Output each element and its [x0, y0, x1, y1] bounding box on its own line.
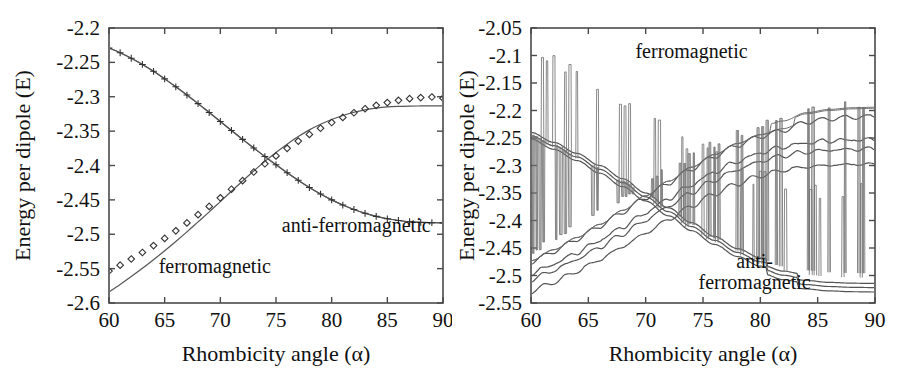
marker-diamond	[362, 105, 369, 112]
y-tick-label: -2.45	[478, 236, 522, 260]
marker-diamond	[184, 220, 191, 227]
energy-spike	[628, 104, 631, 188]
x-tick-label: 70	[210, 308, 231, 332]
figure-container: 60657075808590-2.2-2.25-2.3-2.35-2.4-2.4…	[0, 0, 901, 382]
ferromagnetic-label: ferromagnetic	[159, 255, 271, 278]
y-tick-label: -2.15	[478, 71, 522, 95]
chart-panel-left: 60657075808590-2.2-2.25-2.3-2.35-2.4-2.4…	[0, 0, 452, 382]
marker-diamond	[161, 235, 168, 242]
marker-plus	[295, 177, 302, 184]
energy-spike	[707, 148, 709, 239]
x-tick-label: 90	[433, 308, 453, 332]
marker-diamond	[128, 256, 135, 263]
marker-plus	[351, 206, 358, 213]
y-tick-label: -2.45	[56, 188, 100, 212]
marker-plus	[117, 49, 124, 56]
energy-spike	[596, 89, 599, 170]
x-tick-label: 70	[635, 308, 656, 332]
marker-plus	[339, 202, 346, 209]
y-tick-label: -2.1	[489, 44, 522, 68]
y-tick-label: -2.2	[489, 99, 522, 123]
y-tick-label: -2.5	[489, 264, 522, 288]
energy-spike	[819, 198, 821, 276]
x-axis-title: Rhombicity angle (α)	[609, 341, 798, 366]
marker-diamond	[173, 228, 180, 235]
marker-plus	[317, 191, 324, 198]
y-tick-label: -2.3	[67, 85, 100, 109]
energy-spike	[715, 152, 718, 243]
x-tick-label: 60	[99, 308, 120, 332]
energy-spike	[784, 189, 787, 271]
energy-spike	[686, 149, 688, 227]
x-tick-label: 60	[521, 308, 542, 332]
energy-spike	[809, 189, 812, 274]
chart-panel-right: 60657075808590-2.05-2.1-2.15-2.2-2.25-2.…	[452, 0, 901, 382]
energy-spike	[842, 197, 844, 278]
energy-spike	[658, 120, 661, 208]
y-tick-label: -2.4	[67, 154, 101, 178]
x-tick-label: 90	[865, 308, 886, 332]
energy-spike	[569, 64, 572, 155]
x-tick-label: 85	[377, 308, 398, 332]
energy-spike	[553, 56, 556, 147]
y-tick-label: -2.3	[489, 154, 522, 178]
marker-diamond	[406, 95, 413, 102]
curve-ferromagnetic-sim	[109, 48, 443, 223]
y-tick-label: -2.6	[67, 291, 100, 315]
y-axis-title: Energy per dipole (E)	[10, 70, 35, 261]
anti-ferromagnetic-label: anti-ferromagnetic	[699, 250, 811, 294]
curve-antiferromagnetic-branch-3	[531, 147, 874, 282]
marker-diamond	[150, 242, 157, 249]
marker-diamond	[417, 94, 424, 101]
x-tick-label: 80	[750, 308, 771, 332]
marker-diamond	[206, 203, 213, 210]
y-tick-label: -2.25	[478, 126, 522, 150]
marker-diamond	[195, 211, 202, 218]
marker-plus	[150, 68, 157, 75]
marker-diamond	[384, 99, 391, 106]
data-layer	[531, 56, 874, 294]
energy-spike	[814, 185, 817, 275]
energy-spike	[624, 106, 627, 185]
energy-spike	[546, 61, 548, 145]
energy-spike	[681, 137, 683, 223]
x-tick-label: 75	[266, 308, 287, 332]
y-tick-label: -2.25	[56, 50, 100, 74]
energy-spike	[619, 104, 622, 184]
marker-diamond	[395, 97, 402, 104]
energy-spike	[702, 144, 704, 235]
y-tick-label: -2.35	[478, 181, 522, 205]
y-axis-title: Energy per dipole (E)	[454, 70, 479, 261]
y-tick-label: -2.2	[67, 16, 100, 40]
y-tick-label: -2.5	[67, 222, 100, 246]
curve-antiferromagnetic-branch-5	[531, 115, 874, 265]
energy-spike	[564, 72, 566, 153]
marker-plus	[128, 55, 135, 62]
y-tick-label: -2.55	[478, 291, 522, 315]
marker-diamond	[306, 131, 313, 138]
energy-spike	[576, 71, 578, 158]
energy-spike	[860, 184, 862, 278]
anti-ferromagnetic-label: anti-ferromagnetic	[282, 214, 431, 237]
x-tick-label: 85	[807, 308, 828, 332]
energy-spike	[541, 57, 544, 142]
y-tick-label: -2.55	[56, 257, 100, 281]
marker-plus	[139, 61, 146, 68]
y-tick-label: -2.35	[56, 119, 100, 143]
marker-plus	[328, 196, 335, 203]
x-tick-label: 65	[154, 308, 175, 332]
x-axis-title: Rhombicity angle (α)	[182, 341, 371, 366]
marker-diamond	[117, 262, 124, 269]
x-tick-label: 80	[321, 308, 342, 332]
marker-diamond	[429, 94, 436, 101]
y-tick-label: -2.4	[489, 209, 523, 233]
marker-diamond	[139, 249, 146, 256]
y-tick-label: -2.05	[478, 16, 522, 40]
marker-plus	[306, 184, 313, 191]
ferromagnetic-label: ferromagnetic	[635, 40, 747, 63]
curve-ferromagnetic-theory-plain-line-	[109, 48, 443, 223]
x-tick-label: 65	[578, 308, 599, 332]
data-layer	[106, 45, 447, 292]
x-tick-label: 75	[693, 308, 714, 332]
